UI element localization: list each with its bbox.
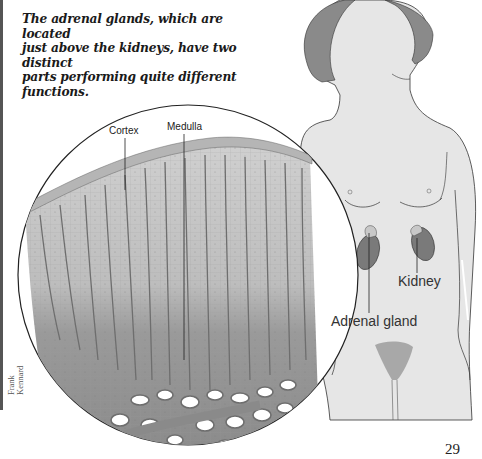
illustrator-credit: Frank Kennard [7, 366, 25, 395]
label-kidney: Kidney [398, 273, 441, 289]
page-number: 29 [445, 441, 460, 458]
credit-line: Kennard [16, 366, 25, 395]
label-adrenal-gland: Adrenal gland [331, 313, 417, 329]
label-cortex: Cortex [109, 125, 138, 136]
label-medulla: Medulla [167, 121, 202, 132]
tissue-magnified-view [18, 105, 358, 459]
adrenal-illustration [0, 0, 482, 459]
